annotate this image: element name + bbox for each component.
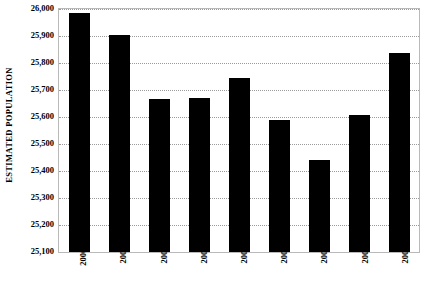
- bar-2003[interactable]: [189, 98, 210, 252]
- bar-slot: [99, 9, 139, 252]
- plot-area: [58, 8, 420, 253]
- x-slot: 2005: [259, 253, 299, 301]
- y-axis-tick-labels: 26,00025,90025,80025,70025,60025,50025,4…: [16, 0, 58, 260]
- x-slot: 2003: [179, 253, 219, 301]
- x-tick-label: 2006: [319, 247, 329, 264]
- x-tick-label: 2004: [239, 247, 249, 264]
- bar-slot: [299, 9, 339, 252]
- bar-2004[interactable]: [229, 78, 250, 252]
- y-tick-label: 25,500: [31, 138, 54, 148]
- y-tick-label: 25,600: [31, 111, 54, 121]
- y-axis-title-label: ESTIMATED POPULATION: [4, 67, 14, 183]
- x-tick-label: 2007: [360, 247, 370, 264]
- x-tick-label: 2003: [199, 247, 209, 264]
- bar-2001[interactable]: [109, 35, 130, 252]
- bar-slot: [179, 9, 219, 252]
- bar-chart: ESTIMATED POPULATION 26,00025,90025,8002…: [0, 0, 429, 301]
- bar-2007[interactable]: [349, 115, 370, 252]
- bar-2000[interactable]: [69, 13, 90, 252]
- x-tick-label: 2005: [279, 247, 289, 264]
- x-slot: 2002: [138, 253, 178, 301]
- bar-2005[interactable]: [269, 120, 290, 252]
- bar-slot: [339, 9, 379, 252]
- bar-2002[interactable]: [149, 99, 170, 252]
- y-tick-label: 25,400: [31, 165, 54, 175]
- x-tick-label: 2001: [118, 247, 128, 264]
- y-tick-label: 25,100: [31, 246, 54, 256]
- bar-slot: [259, 9, 299, 252]
- y-tick-label: 26,000: [31, 3, 54, 13]
- x-axis-tick-labels: 2000*20012002200320042005200620072008: [58, 253, 420, 301]
- x-slot: 2008: [380, 253, 420, 301]
- x-slot: 2000*: [58, 253, 98, 301]
- y-tick-label: 25,200: [31, 219, 54, 229]
- bar-slot: [379, 9, 419, 252]
- y-tick-label: 25,900: [31, 30, 54, 40]
- x-tick-label: 2008: [400, 247, 410, 264]
- bar-slot: [219, 9, 259, 252]
- x-tick-label: 2000*: [78, 244, 88, 265]
- y-tick-label: 25,700: [31, 84, 54, 94]
- bars-layer: [59, 9, 419, 252]
- bar-slot: [139, 9, 179, 252]
- x-slot: 2004: [219, 253, 259, 301]
- x-slot: 2001: [98, 253, 138, 301]
- y-tick-label: 25,800: [31, 57, 54, 67]
- x-slot: 2007: [340, 253, 380, 301]
- bar-2006[interactable]: [309, 160, 330, 252]
- bar-slot: [59, 9, 99, 252]
- x-slot: 2006: [299, 253, 339, 301]
- y-tick-label: 25,300: [31, 192, 54, 202]
- bar-2008[interactable]: [389, 53, 410, 252]
- x-tick-label: 2002: [159, 247, 169, 264]
